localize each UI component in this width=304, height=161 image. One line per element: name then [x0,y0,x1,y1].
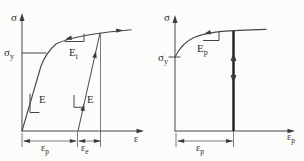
left-curve-direction-arrow-icon [116,29,123,33]
right-yield-stress-sub: y [164,57,168,66]
elastic-strain-dim-label: εe [81,142,89,156]
elastic-modulus-unloading-label: E [87,93,94,105]
right-y-axis-arrow-icon [173,15,178,23]
right-panel: σ εp σy Ep εp [158,11,295,156]
plasticity-figure: σ ε σy E E Et εp εe σ εp [0,0,304,161]
left-yield-stress-sub: y [10,52,14,61]
elastic-strain-dim-arrow-right-icon [94,139,101,143]
elastic-modulus-unloading-triangle [74,96,84,108]
elastic-modulus-loading-label: E [39,93,46,105]
left-yield-stress-label: σy [4,46,14,61]
left-stress-strain-curve [22,30,131,131]
tangent-modulus-sub: t [76,52,79,61]
right-eps-axis-sub: p [291,136,295,145]
plastic-strain-dim-sub: p [45,147,49,156]
plastic-strain-dim-arrow-left-icon [23,139,30,143]
right-sigma-axis-label: σ [164,11,170,23]
tangent-modulus-arrow-icon [65,36,72,40]
plastic-modulus-sub: p [204,48,208,57]
plastic-strain-dim-arrow-right-icon [70,139,77,143]
elastic-modulus-loading-triangle [30,94,39,113]
plastic-modulus-label: Ep [197,42,208,57]
unloading-line [78,33,100,131]
right-plastic-strain-dim-label: εp [196,142,204,156]
left-y-axis-arrow-icon [20,13,25,21]
tangent-modulus-label: Et [69,46,79,61]
left-sigma-axis-label: σ [11,11,17,23]
right-dim-arrow-right-icon [226,139,233,143]
left-panel: σ ε σy E E Et εp εe [4,11,144,156]
right-dim-arrow-left-icon [177,139,184,143]
unloading-line-arrow-upper-icon [92,51,96,58]
plastic-modulus-arrow-icon [204,30,211,34]
right-eps-axis-label: εp [287,131,295,145]
unload-reload-up-arrow-icon [231,52,237,61]
right-yield-stress-label: σy [158,51,168,66]
right-plastic-strain-dim-sub: p [200,147,204,156]
unload-reload-down-arrow-icon [231,75,237,84]
right-hardening-curve [175,29,266,57]
elastic-strain-dim-sub: e [85,147,89,156]
left-eps-axis-label: ε [134,133,138,144]
figure-canvas: σ ε σy E E Et εp εe σ εp [0,0,304,161]
plastic-strain-dim-label: εp [41,142,49,156]
